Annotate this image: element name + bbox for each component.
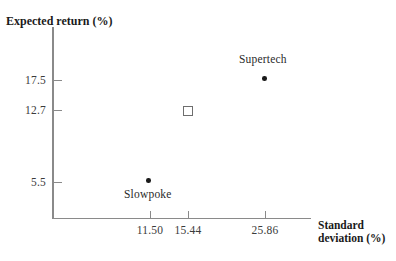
x-tick-mark-11-50 [150, 211, 151, 219]
x-tick-mark-25-86 [265, 211, 266, 219]
x-tick-label-25-86: 25.86 [235, 224, 295, 236]
data-point-slowpoke [146, 178, 151, 183]
y-axis-title: Expected return (%) [6, 14, 112, 29]
y-tick-mark-5-5 [53, 182, 62, 183]
y-tick-label-17-5: 17.5 [6, 74, 46, 86]
x-axis-title: Standard deviation (%) [318, 219, 396, 245]
y-axis-line [52, 27, 54, 219]
y-tick-mark-17-5 [53, 80, 62, 81]
data-point-label-slowpoke: Slowpoke [124, 188, 172, 200]
x-tick-mark-15-44 [188, 211, 189, 219]
y-tick-label-12-7: 12.7 [6, 104, 46, 116]
y-tick-label-5-5: 5.5 [6, 176, 46, 188]
x-axis-line [52, 218, 311, 219]
x-axis-title-line-2: deviation (%) [318, 232, 396, 245]
scatter-chart: Expected return (%) 17.5 12.7 5.5 11.50 … [0, 0, 396, 261]
y-tick-mark-12-7 [53, 110, 62, 111]
data-point-label-supertech: Supertech [239, 53, 287, 65]
x-tick-label-15-44: 15.44 [158, 224, 218, 236]
data-point-portfolio [183, 106, 193, 116]
x-axis-title-line-1: Standard [318, 219, 396, 232]
data-point-supertech [262, 76, 267, 81]
